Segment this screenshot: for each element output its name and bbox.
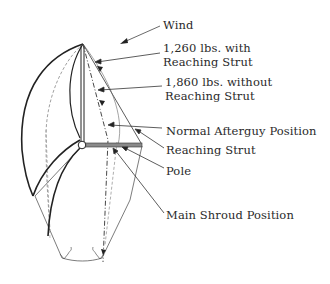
load-with-strut-label-line1: 1,260 lbs. with xyxy=(163,41,251,55)
normal-afterguy-label: Normal Afterguy Position xyxy=(166,124,317,138)
load-with-strut-label-line2: Reaching Strut xyxy=(163,55,253,69)
wind-label: Wind xyxy=(163,18,193,32)
hull-stern xyxy=(62,258,102,261)
shroud-lower-dashed xyxy=(105,142,117,245)
load-without-strut-label-line1: 1,860 lbs. without xyxy=(165,75,272,89)
afterguy-arrows xyxy=(97,66,106,255)
leader-lines xyxy=(95,53,164,213)
wind-arrow xyxy=(120,26,160,44)
mast xyxy=(81,46,84,142)
load-without-strut-label-line2: Reaching Strut xyxy=(165,89,255,103)
main-shroud-label: Main Shroud Position xyxy=(166,208,294,222)
pole-label: Pole xyxy=(166,164,191,178)
hull-right xyxy=(102,146,142,258)
spinnaker-pole xyxy=(85,143,142,147)
pole-mast-fitting xyxy=(78,141,86,149)
hull-left xyxy=(35,148,80,258)
reaching-strut-label: Reaching Strut xyxy=(166,143,256,157)
